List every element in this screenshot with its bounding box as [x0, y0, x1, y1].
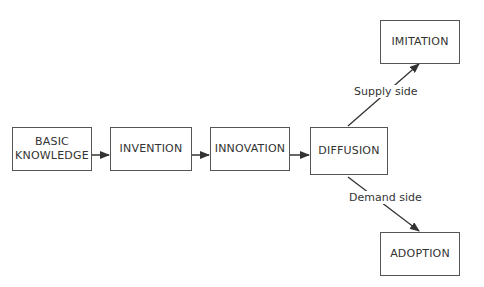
node-invention-label: INVENTION	[120, 142, 183, 156]
node-imitation-label: IMITATION	[391, 35, 448, 49]
node-diffusion: DIFFUSION	[310, 127, 388, 175]
edge-label-supply-side: Supply side	[352, 85, 420, 98]
node-invention: INVENTION	[110, 127, 192, 171]
node-adoption: ADOPTION	[380, 232, 460, 276]
edge-label-demand-side: Demand side	[347, 191, 424, 204]
node-basic-knowledge: BASIC KNOWLEDGE	[12, 127, 92, 171]
node-diffusion-label: DIFFUSION	[318, 144, 379, 158]
node-imitation: IMITATION	[380, 20, 460, 64]
node-innovation-label: INNOVATION	[215, 142, 286, 156]
node-basic-knowledge-line1: BASIC	[35, 135, 69, 149]
node-innovation: INNOVATION	[210, 127, 290, 171]
node-basic-knowledge-line2: KNOWLEDGE	[15, 149, 89, 163]
arrow-diffusion-to-adoption	[348, 177, 419, 231]
node-adoption-label: ADOPTION	[390, 247, 450, 261]
